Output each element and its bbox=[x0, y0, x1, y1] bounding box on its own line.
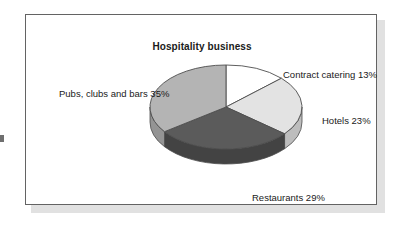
slice-label-restaurants: Restaurants 29% bbox=[252, 193, 325, 203]
pie-slices-group bbox=[150, 65, 302, 164]
slice-label-hotels: Hotels 23% bbox=[322, 116, 371, 126]
pie-chart bbox=[26, 15, 378, 206]
figure-frame: Hospitality business Contract catering 1… bbox=[25, 14, 377, 205]
screenshot-canvas: Hospitality business Contract catering 1… bbox=[0, 0, 408, 225]
slice-label-pubs-clubs-bars: Pubs, clubs and bars 35% bbox=[59, 89, 169, 99]
scan-edge-artifact bbox=[0, 135, 4, 142]
slice-label-contract-catering: Contract catering 13% bbox=[283, 70, 377, 80]
